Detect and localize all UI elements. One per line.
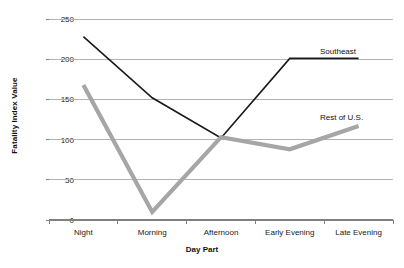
- gridlines: [49, 19, 393, 180]
- series-line-rest-of-u-s: [83, 85, 358, 212]
- x-tick-label: Early Evening: [265, 228, 314, 237]
- x-axis-title: Day Part: [0, 245, 404, 254]
- series-lines: [83, 37, 358, 212]
- x-tick-label: Night: [74, 228, 93, 237]
- x-tick-label: Morning: [138, 228, 167, 237]
- x-tick-label: Afternoon: [204, 228, 239, 237]
- x-tick-label: Late Evening: [335, 228, 382, 237]
- line-chart: Fatality Index Value 050100150200250 Nig…: [0, 0, 404, 268]
- series-label-rest-of-us: Rest of U.S.: [320, 113, 363, 122]
- series-label-southeast: Southeast: [320, 47, 356, 56]
- series-line-southeast: [83, 37, 358, 138]
